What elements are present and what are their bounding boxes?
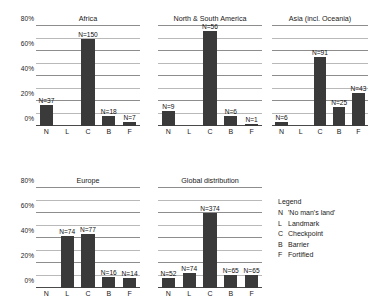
legend-item-label: 'No man's land' [288,208,335,218]
x-axis-tick-label: N [166,128,171,136]
x-axis-tick-label: C [85,290,90,298]
bar-slot: N=150C [78,26,99,126]
bar-slot: N=374C [200,188,221,288]
bar [162,111,175,126]
legend-item-key: L [278,219,288,229]
bar [203,31,216,126]
y-axis-tick-label: 20% [21,253,34,260]
bar-slot: N=7F [119,26,140,126]
legend-title: Legend [278,197,335,207]
multi-panel-bar-chart: Africa0%20%40%60%80%N=37NLN=150CN=18BN=7… [0,0,371,302]
bar-slot: N=6N [272,26,291,126]
x-axis-tick-label: C [207,128,212,136]
bar [183,273,196,288]
bar-value-label: N=18 [101,108,117,115]
bar [352,93,364,126]
bar [245,275,258,288]
bar-value-label: N=52 [160,270,176,277]
legend-item: N'No man's land' [278,208,335,218]
bar-value-label: N=77 [80,226,96,233]
bar-value-label: N=65 [223,267,239,274]
bar-value-label: N=150 [78,31,98,38]
y-axis-tick-label: 80% [21,16,34,23]
bar-slot: N=43F [349,26,368,126]
y-axis-tick-label: 40% [21,228,34,235]
legend-item: BBarrier [278,240,335,250]
chart-panel: Asia (incl. Oceania)N=6NLN=91CN=25BN=43F [272,14,368,138]
legend-item-key: F [278,250,288,260]
bar-value-label: N=56 [202,23,218,30]
bar-value-label: N=7 [123,114,135,121]
bar-slot: N=37N [36,26,57,126]
bar [40,105,53,127]
y-axis-tick-label: 40% [21,66,34,73]
panel-title: Asia (incl. Oceania) [272,14,368,23]
bar-value-label: N=91 [312,49,328,56]
bar-value-label: N=74 [181,265,197,272]
chart-legend: Legend N'No man's land'LLandmarkCCheckpo… [278,197,335,260]
bar-value-label: N=74 [59,228,75,235]
legend-item-key: B [278,240,288,250]
bar-value-label: N=6 [225,108,237,115]
bar-slot: N=9N [158,26,179,126]
bar-slot: N=18B [98,26,119,126]
plot-area: N=52NN=74LN=374CN=65BN=65F [158,188,262,288]
x-axis-tick-label: N [44,128,49,136]
x-axis-tick-label: L [187,128,191,136]
bar-slot: N=25B [330,26,349,126]
bar-value-label: N=16 [101,269,117,276]
bar-slot: N=56C [200,26,221,126]
bar [81,234,94,288]
bar-slot: N [36,188,57,288]
x-axis-tick-label: B [106,128,111,136]
bar-value-label: N=43 [350,85,366,92]
plot-area: 0%20%40%60%80%NN=74LN=77CN=16BN=14F [36,188,140,288]
x-axis-tick-label: N [279,128,284,136]
bar-slot: N=14F [119,188,140,288]
bar [123,122,136,126]
legend-item-key: C [278,229,288,239]
x-axis-tick-label: F [249,290,253,298]
x-axis-tick-label: B [106,290,111,298]
bar-value-label: N=14 [122,270,138,277]
bar-value-label: N=65 [244,267,260,274]
legend-item: LLandmark [278,219,335,229]
bar [224,275,237,288]
legend-item-label: Checkpoint [288,229,323,239]
x-axis-tick-label: F [356,128,360,136]
bar-value-label: N=374 [200,205,220,212]
bar-slot: N=6B [220,26,241,126]
bar-slot: N=65F [241,188,262,288]
x-axis-tick-label: B [228,290,233,298]
bar [102,277,115,288]
y-axis-tick-label: 0% [24,278,34,285]
bar-value-label: N=9 [162,103,174,110]
bar [203,213,216,288]
bar-value-label: N=6 [275,114,287,121]
x-axis-tick-label: L [187,290,191,298]
bar-slot: N=52N [158,188,179,288]
legend-item-key: N [278,208,288,218]
x-axis-tick-label: L [299,128,303,136]
y-axis-tick-label: 20% [21,91,34,98]
bar [245,124,258,126]
y-axis-tick-label: 60% [21,41,34,48]
bar-value-label: N=1 [245,116,257,123]
x-axis-tick-label: F [127,290,131,298]
panel-title: Africa [36,14,140,23]
x-axis-tick-label: N [44,290,49,298]
panel-title: Europe [36,176,140,185]
bar-slot: N=77C [78,188,99,288]
bar [123,278,136,288]
legend-item: CCheckpoint [278,229,335,239]
bar [102,116,115,127]
bar [314,57,326,126]
bar-slot: L [291,26,310,126]
bar-slot: N=65B [220,188,241,288]
y-axis-tick-label: 80% [21,178,34,185]
x-axis-tick-label: C [85,128,90,136]
legend-item-label: Landmark [288,219,319,229]
legend-item-label: Fortified [288,250,313,260]
bar-slot: L [179,26,200,126]
bar-value-label: N=37 [38,97,54,104]
